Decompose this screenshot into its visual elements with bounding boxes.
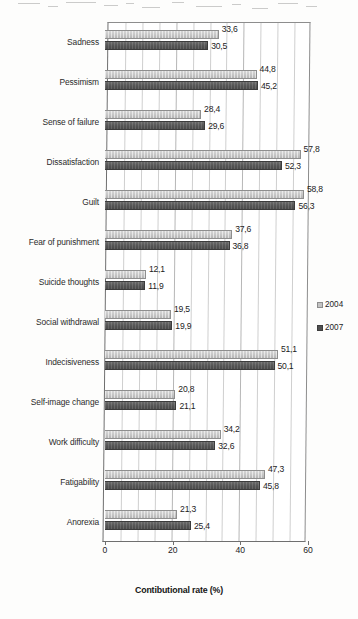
- bar-rows: Sadness33,630,5Pessimism44,845,2Sense of…: [105, 22, 308, 542]
- legend-item-2004[interactable]: 2004: [317, 300, 357, 309]
- bar-row: Fear of punishment37,636,8: [105, 222, 308, 262]
- bar-2007[interactable]: [105, 201, 295, 210]
- bar-value-label-2004: 57,8: [304, 144, 320, 154]
- bar-value-label-2004: 28,4: [204, 104, 220, 114]
- bar-value-label-2004: 34,2: [224, 424, 240, 434]
- category-label: Suicide thoughts: [39, 277, 99, 287]
- x-tick-label: 60: [303, 545, 313, 555]
- bar-2007[interactable]: [105, 121, 205, 130]
- bar-row: Dissatisfaction57,852,3: [105, 142, 308, 182]
- bar-2007[interactable]: [105, 241, 230, 250]
- bar-2007[interactable]: [105, 41, 208, 50]
- bar-value-label-2004: 19,5: [174, 304, 190, 314]
- bar-2007[interactable]: [105, 281, 145, 290]
- category-label: Anorexia: [67, 517, 99, 527]
- square-marker-light-icon: [317, 302, 323, 308]
- x-tick-label: 20: [168, 545, 178, 555]
- bar-value-label-2004: 37,6: [235, 224, 251, 234]
- bar-2004[interactable]: [105, 230, 232, 239]
- bar-row: Fatigability47,345,8: [105, 462, 308, 502]
- bar-value-label-2004: 58,8: [307, 184, 323, 194]
- bar-value-label-2007: 30,5: [211, 41, 227, 51]
- legend-item-2007[interactable]: 2007: [317, 323, 357, 332]
- chart-legend: 2004 2007: [317, 300, 357, 346]
- x-tick-label: 0: [103, 545, 108, 555]
- category-label: Sadness: [67, 37, 99, 47]
- x-axis-title: Contibutional rate (%): [0, 585, 358, 595]
- bar-value-label-2007: 21,1: [179, 401, 195, 411]
- bar-value-label-2007: 45,2: [261, 81, 277, 91]
- bar-2004[interactable]: [105, 270, 146, 279]
- bar-2004[interactable]: [105, 110, 201, 119]
- bar-2007[interactable]: [105, 481, 260, 490]
- bar-row: Indecisiveness51,150,1: [105, 342, 308, 382]
- bar-value-label-2004: 51,1: [281, 344, 297, 354]
- category-label: Work difficulty: [49, 437, 99, 447]
- bar-value-label-2007: 29,6: [208, 121, 224, 131]
- bar-value-label-2007: 52,3: [285, 161, 301, 171]
- bar-value-label-2007: 32,6: [218, 441, 234, 451]
- bar-2004[interactable]: [105, 430, 221, 439]
- bar-row: Anorexia21,325,4: [105, 502, 308, 542]
- bar-row: Self-image change20,821,1: [105, 382, 308, 422]
- bar-2007[interactable]: [105, 361, 275, 370]
- bar-value-label-2007: 50,1: [278, 361, 294, 371]
- bar-2004[interactable]: [105, 510, 177, 519]
- bar-value-label-2007: 45,8: [263, 481, 279, 491]
- bar-value-label-2004: 44,8: [260, 64, 276, 74]
- bar-2004[interactable]: [105, 390, 175, 399]
- x-axis-tick-labels: 0204060: [105, 545, 308, 561]
- category-label: Social withdrawal: [36, 317, 99, 327]
- bar-value-label-2004: 12,1: [149, 264, 165, 274]
- category-label: Dissatisfaction: [47, 157, 100, 167]
- bar-row: Suicide thoughts12,111,9: [105, 262, 308, 302]
- bar-value-label-2004: 21,3: [180, 504, 196, 514]
- legend-label: 2004: [325, 300, 343, 309]
- bar-2007[interactable]: [105, 321, 172, 330]
- bar-2004[interactable]: [105, 150, 301, 159]
- bar-row: Sadness33,630,5: [105, 22, 308, 62]
- bar-2004[interactable]: [105, 470, 265, 479]
- legend-label: 2007: [325, 323, 343, 332]
- bar-value-label-2007: 56,3: [298, 201, 314, 211]
- bar-2007[interactable]: [105, 521, 191, 530]
- bar-value-label-2004: 20,8: [178, 384, 194, 394]
- category-label: Self-image change: [31, 397, 99, 407]
- x-tick-label: 40: [236, 545, 246, 555]
- grouped-bar-chart: Sadness33,630,5Pessimism44,845,2Sense of…: [0, 0, 358, 619]
- bar-value-label-2007: 36,8: [233, 241, 249, 251]
- bar-row: Work difficulty34,232,6: [105, 422, 308, 462]
- category-label: Fatigability: [60, 477, 99, 487]
- bar-2007[interactable]: [105, 161, 282, 170]
- category-label: Sense of failure: [42, 117, 99, 127]
- bar-2004[interactable]: [105, 310, 171, 319]
- category-label: Indecisiveness: [45, 357, 99, 367]
- bar-row: Sense of failure28,429,6: [105, 102, 308, 142]
- category-label: Guilt: [82, 197, 99, 207]
- bar-value-label-2004: 47,3: [268, 464, 284, 474]
- bar-2004[interactable]: [105, 350, 278, 359]
- bar-row: Guilt58,856,3: [105, 182, 308, 222]
- bar-row: Pessimism44,845,2: [105, 62, 308, 102]
- bar-row: Social withdrawal19,519,9: [105, 302, 308, 342]
- category-label: Pessimism: [59, 77, 99, 87]
- bar-2004[interactable]: [105, 190, 304, 199]
- bar-2007[interactable]: [105, 401, 176, 410]
- bar-value-label-2007: 11,9: [148, 281, 163, 291]
- bar-value-label-2007: 25,4: [194, 521, 210, 531]
- square-marker-dark-icon: [317, 325, 323, 331]
- bar-2007[interactable]: [105, 441, 215, 450]
- bar-2004[interactable]: [105, 70, 257, 79]
- bar-2004[interactable]: [105, 30, 219, 39]
- bar-value-label-2004: 33,6: [222, 24, 238, 34]
- bar-value-label-2007: 19,9: [175, 321, 191, 331]
- bar-2007[interactable]: [105, 81, 258, 90]
- category-label: Fear of punishment: [29, 237, 99, 247]
